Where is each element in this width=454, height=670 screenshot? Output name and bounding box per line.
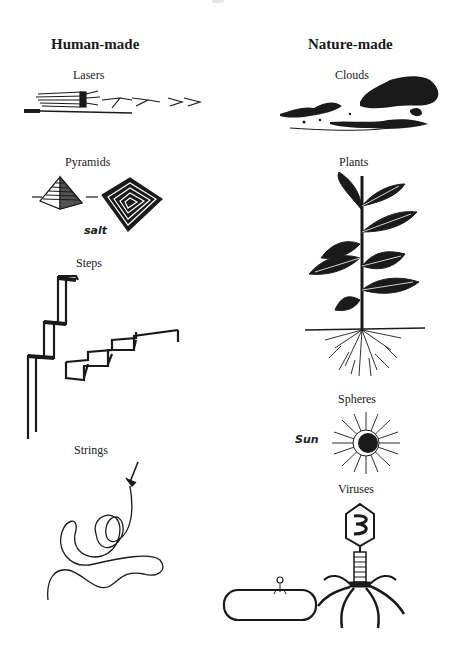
heading-nature-made: Nature-made	[308, 36, 393, 53]
label-lasers: Lasers	[73, 68, 104, 83]
plant-icon	[305, 170, 435, 380]
annotation-sun: Sun	[295, 433, 319, 446]
label-strings: Strings	[74, 443, 108, 458]
heading-human-made: Human-made	[51, 36, 139, 53]
steps-icon	[24, 274, 184, 444]
label-steps: Steps	[76, 256, 102, 271]
label-plants: Plants	[339, 155, 368, 170]
string-icon	[40, 460, 180, 605]
sun-icon	[330, 412, 402, 474]
scan-artifact	[212, 0, 224, 3]
label-viruses: Viruses	[338, 482, 374, 497]
annotation-salt: salt	[84, 224, 107, 237]
laser-icon	[20, 88, 210, 120]
label-spheres: Spheres	[338, 392, 376, 407]
label-pyramids: Pyramids	[65, 155, 110, 170]
clouds-icon	[270, 72, 445, 134]
bacteriophage-icon	[222, 502, 412, 632]
